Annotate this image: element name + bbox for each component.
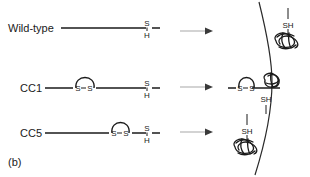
sulfur-atom-label: S bbox=[144, 79, 149, 88]
sulfur-atom-label: S bbox=[144, 124, 149, 133]
construct-label-cc5: CC5 bbox=[20, 127, 42, 139]
arrow-head bbox=[205, 129, 213, 136]
coiled-protein-icon bbox=[275, 33, 298, 49]
construct-label-wild-type: Wild-type bbox=[8, 22, 54, 34]
reaction-arrow-cc1 bbox=[180, 84, 213, 91]
disulfide-sulfur-left: S bbox=[75, 84, 80, 93]
hydrogen-atom-label: H bbox=[144, 91, 150, 100]
reaction-arrow-cc5 bbox=[180, 129, 213, 136]
product-sh-label: SH bbox=[241, 127, 252, 136]
disulfide-loop-cc5: S S bbox=[111, 123, 129, 139]
row-cc1: CC1 S S S H S S bbox=[20, 73, 280, 114]
sulfur-atom-label: S bbox=[144, 19, 149, 28]
arrow-head bbox=[205, 28, 213, 35]
hydrogen-atom-label: H bbox=[144, 136, 150, 145]
product-sh-label: SH bbox=[260, 95, 271, 104]
row-wild-type: Wild-type S H SH bbox=[8, 8, 298, 49]
disulfide-sulfur-right: S bbox=[87, 84, 92, 93]
hydrogen-atom-label: H bbox=[144, 31, 150, 40]
disulfide-sulfur-right: S bbox=[123, 129, 128, 138]
disulfide-loop-cc1: S S bbox=[75, 78, 94, 94]
row-cc5: CC5 S S S H SH bbox=[20, 114, 257, 155]
arrow-head bbox=[205, 84, 213, 91]
thiol-terminus-cc5: S H bbox=[144, 124, 160, 145]
product-cc5: SH bbox=[234, 114, 257, 155]
reaction-arrow-wild-type bbox=[180, 28, 213, 35]
disulfide-sulfur-left: S bbox=[111, 129, 116, 138]
product-sh-label: SH bbox=[282, 21, 293, 30]
thiol-terminus-wild-type: S H bbox=[144, 19, 160, 40]
construct-label-cc1: CC1 bbox=[20, 82, 42, 94]
disulfide-sulfur-left: S bbox=[237, 84, 242, 93]
disulfide-sulfur-right: S bbox=[249, 84, 254, 93]
coiled-protein-icon bbox=[234, 139, 257, 155]
thiol-terminus-cc1: S H bbox=[144, 79, 160, 100]
product-wild-type: SH bbox=[275, 8, 298, 49]
panel-label: (b) bbox=[8, 156, 21, 168]
figure-panel-b: Wild-type S H SH bbox=[0, 0, 310, 177]
